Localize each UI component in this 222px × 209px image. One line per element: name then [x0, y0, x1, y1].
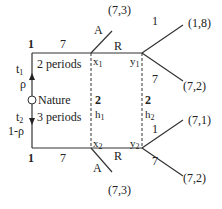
bottom-branch-7: 7: [152, 155, 158, 167]
prob-rho: ρ: [20, 78, 26, 90]
player1-top-label: 1: [28, 38, 34, 50]
top-move-label: 7: [60, 38, 66, 50]
bottom-move-label: 7: [60, 152, 66, 164]
node-y2: y2: [130, 137, 140, 153]
info-player-top: 2: [95, 94, 101, 106]
bottom-accept-payoff: (7,3): [108, 184, 131, 196]
payoff-1-8: (1,8): [188, 17, 211, 29]
payoff-7-2-bottom: (7,2): [183, 172, 206, 184]
top-accept-label: A: [94, 24, 103, 36]
node-x2: x2: [93, 137, 103, 153]
top-reject-label: R: [114, 40, 122, 52]
bottom-accept-label: A: [93, 162, 102, 174]
info-player-top-right: 2: [145, 94, 151, 106]
node-y1: y1: [130, 55, 140, 71]
payoff-7-2-top: (7,2): [183, 80, 206, 92]
nature-label: Nature: [38, 94, 71, 106]
info-set-h1: h1: [95, 108, 105, 124]
payoff-7-1: (7,1): [188, 114, 211, 126]
top-accept-payoff: (7,3): [108, 4, 131, 16]
bottom-branch-1: 1: [152, 123, 158, 135]
bottom-type-label: 3 periods: [37, 111, 81, 123]
prob-one-minus-rho: 1-ρ: [8, 125, 24, 137]
node-x1: x1: [93, 55, 103, 71]
player1-bottom-label: 1: [28, 152, 34, 164]
top-type-label: 2 periods: [37, 58, 81, 70]
top-branch-7: 7: [152, 73, 158, 85]
top-branch-1: 1: [152, 15, 158, 27]
bottom-reject-label: R: [114, 150, 122, 162]
